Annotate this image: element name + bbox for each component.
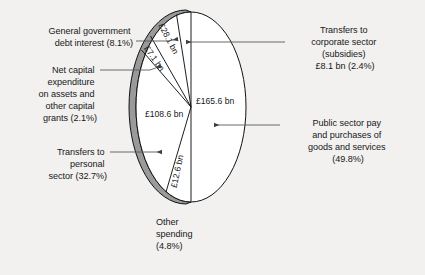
callout-personal-line3: sector (32.7%) xyxy=(49,171,107,181)
callout-debt-interest-line1: General government xyxy=(49,26,132,36)
callout-corporate-line2: corporate sector xyxy=(311,37,376,47)
callout-net-capital-line2: expenditure xyxy=(48,77,95,87)
callout-personal-line2: personal xyxy=(70,159,105,169)
callout-other-spending: Other spending (4.8%) xyxy=(156,217,195,251)
callout-public-pay-line3: goods and services xyxy=(308,142,386,152)
pie-chart-svg: £28.1 bn £7.1 bn £108.6 bn £165.6 bn £12… xyxy=(0,0,425,275)
callout-other-spending-line2: spending xyxy=(156,229,193,239)
callout-public-pay: Public sector pay and purchases of goods… xyxy=(308,118,388,164)
callout-public-pay-line4: (49.8%) xyxy=(332,154,364,164)
callout-corporate-line1: Transfers to xyxy=(320,25,368,35)
callout-corporate: Transfers to corporate sector (subsidies… xyxy=(311,25,378,71)
callout-net-capital: Net capital expenditure on assets and ot… xyxy=(39,65,97,123)
slice-value-public-pay: £165.6 bn xyxy=(196,96,234,106)
callout-net-capital-line4: other capital xyxy=(46,101,95,111)
callout-personal-line1: Transfers to xyxy=(57,147,105,157)
pie-chart-figure: £28.1 bn £7.1 bn £108.6 bn £165.6 bn £12… xyxy=(0,0,425,275)
callout-net-capital-line3: on assets and xyxy=(39,89,95,99)
callout-other-spending-line3: (4.8%) xyxy=(156,241,183,251)
callout-debt-interest: General government debt interest (8.1%) xyxy=(49,26,134,48)
callout-debt-interest-line2: debt interest (8.1%) xyxy=(55,38,133,48)
callout-other-spending-line1: Other xyxy=(156,217,179,227)
callout-personal: Transfers to personal sector (32.7%) xyxy=(49,147,107,181)
callout-net-capital-line5: grants (2.1%) xyxy=(43,113,97,123)
callout-public-pay-line2: and purchases of xyxy=(312,130,381,140)
slice-value-personal: £108.6 bn xyxy=(145,109,183,119)
callout-corporate-line3: (subsidies) xyxy=(322,49,365,59)
callout-public-pay-line1: Public sector pay xyxy=(313,118,382,128)
callout-net-capital-line1: Net capital xyxy=(52,65,94,75)
callout-corporate-line4: £8.1 bn (2.4%) xyxy=(316,61,375,71)
